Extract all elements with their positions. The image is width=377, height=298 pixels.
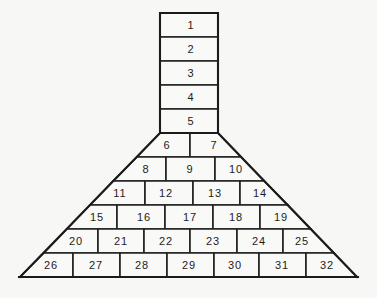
cell-12-label: 12 (159, 187, 173, 199)
cell-10-label: 10 (229, 163, 243, 175)
pyramid-row-1 (137, 133, 241, 157)
cell-5-label: 5 (187, 115, 194, 127)
pyramid-row-5 (44, 229, 334, 253)
cell-19-label: 19 (274, 211, 288, 223)
cell-11-label: 11 (113, 187, 126, 199)
cell-13-label: 13 (208, 187, 222, 199)
cell-21-label: 21 (114, 235, 128, 247)
cell-8-label: 8 (142, 163, 149, 175)
cell-29-label: 29 (182, 259, 196, 271)
cell-15-label: 15 (90, 211, 104, 223)
cell-32-label: 32 (320, 259, 334, 271)
cell-9-label: 9 (186, 163, 193, 175)
cell-8-shape (113, 157, 166, 181)
cell-26-label: 26 (44, 259, 58, 271)
cell-16-label: 16 (137, 211, 151, 223)
cell-1-label: 1 (187, 19, 194, 31)
cell-30-label: 30 (228, 259, 242, 271)
cell-22-label: 22 (159, 235, 173, 247)
cell-2-label: 2 (187, 43, 194, 55)
pyramid-chimney-diagram: 1 2 3 4 5 6 7 8 9 10 11 12 13 14 15 16 1… (0, 0, 377, 298)
cell-3-label: 3 (187, 67, 194, 79)
cell-4-label: 4 (187, 91, 194, 103)
cell-17-label: 17 (183, 211, 197, 223)
brick-pyramid-figure: 1 2 3 4 5 6 7 8 9 10 11 12 13 14 15 16 1… (0, 0, 377, 298)
cell-6-label: 6 (163, 139, 170, 151)
cell-23-label: 23 (206, 235, 220, 247)
cell-7-label: 7 (210, 139, 217, 151)
cell-14-label: 14 (253, 187, 267, 199)
cell-31-label: 31 (275, 259, 289, 271)
cell-27-label: 27 (89, 259, 103, 271)
cell-20-label: 20 (69, 235, 83, 247)
cell-25-label: 25 (295, 235, 309, 247)
cell-28-label: 28 (135, 259, 149, 271)
cell-24-label: 24 (252, 235, 266, 247)
cell-18-label: 18 (229, 211, 243, 223)
